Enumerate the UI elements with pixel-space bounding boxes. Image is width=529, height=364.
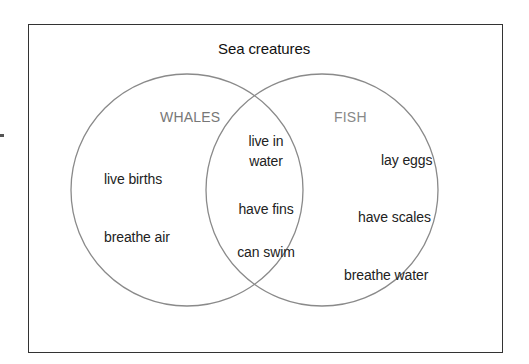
intersection-item-live-in-water-line1: live in: [236, 133, 296, 150]
intersection-item-have-fins: have fins: [232, 201, 300, 218]
fish-item-lay-eggs: lay eggs: [381, 152, 432, 169]
whales-item-breathe-air: breathe air: [104, 229, 170, 246]
intersection-item-can-swim: can swim: [230, 244, 302, 261]
intersection-item-live-in-water-line2: water: [236, 153, 296, 170]
set-label-whales: WHALES: [160, 109, 220, 126]
fish-item-have-scales: have scales: [358, 209, 431, 226]
fish-item-breathe-water: breathe water: [344, 267, 428, 284]
set-label-fish: FISH: [334, 109, 367, 126]
whales-item-live-births: live births: [104, 171, 162, 188]
diagram-title: Sea creatures: [218, 40, 310, 57]
